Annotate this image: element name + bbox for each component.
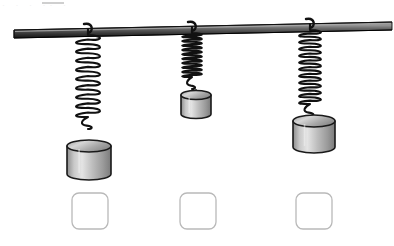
hanging-mass-2 [181,90,211,119]
spring-coil-2 [182,27,202,89]
springs-and-masses-diagram [0,0,394,246]
spring-mass-assembly-2 [181,22,211,119]
spring-coil-1 [76,29,100,129]
spring-mass-assembly-1 [67,24,111,180]
answer-box-2 [180,193,216,229]
figure-canvas: · · · ·· · [0,0,394,246]
support-rod [14,22,392,38]
spring-mass-assemblies [67,19,335,180]
hanging-mass-3 [293,115,335,153]
answer-box-field-3[interactable] [296,193,332,229]
answer-box-1 [72,193,108,229]
answer-box-field-1[interactable] [72,193,108,229]
answer-box-row [72,193,332,229]
answer-box-field-2[interactable] [180,193,216,229]
spring-mass-assembly-3 [293,19,335,153]
hanging-mass-1 [67,140,111,180]
answer-box-3 [296,193,332,229]
spring-coil-3 [299,24,321,116]
mass-top-1 [67,140,111,152]
mass-top-3 [293,115,335,127]
mass-top-2 [181,91,211,100]
